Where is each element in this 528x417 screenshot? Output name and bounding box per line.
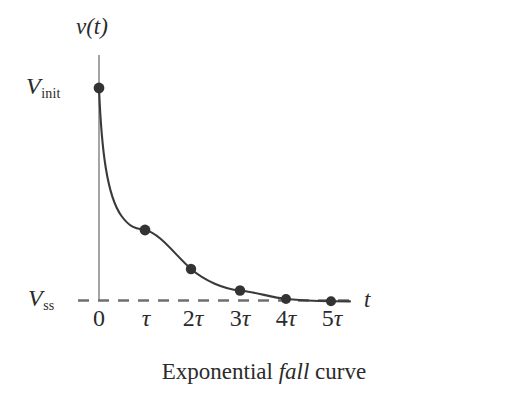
data-point-marker xyxy=(281,294,291,304)
y-axis-value-label-initial: Vinit xyxy=(26,74,61,101)
v-init-subscript: init xyxy=(41,86,61,101)
data-point-marker xyxy=(235,285,245,295)
x-axis-label: t xyxy=(364,288,370,311)
tick-tau-symbol: τ xyxy=(195,305,204,331)
caption-suffix: curve xyxy=(315,359,366,384)
x-tick-label-tau: τ xyxy=(124,306,168,330)
tick-coefficient: 5 xyxy=(322,305,334,331)
data-point-marker xyxy=(186,264,196,274)
x-tick-label-3tau: 3τ xyxy=(218,306,262,330)
tick-coefficient: 2 xyxy=(183,305,195,331)
caption-emphasis: fall xyxy=(279,359,310,384)
v-ss-symbol: V xyxy=(28,285,43,311)
x-tick-label-2tau: 2τ xyxy=(171,306,215,330)
y-axis-value-label-steady-state: Vss xyxy=(28,286,54,313)
x-tick-label-4tau: 4τ xyxy=(264,306,308,330)
y-axis-label: v(t) xyxy=(76,15,108,38)
caption-prefix: Exponential xyxy=(162,359,273,384)
tick-tau-symbol: τ xyxy=(242,305,251,331)
tick-coefficient: 3 xyxy=(230,305,242,331)
tick-coefficient: 0 xyxy=(93,305,105,331)
tick-tau-symbol: τ xyxy=(142,305,151,331)
tick-tau-symbol: τ xyxy=(288,305,297,331)
x-tick-label-5tau: 5τ xyxy=(310,306,354,330)
tick-coefficient: 4 xyxy=(276,305,288,331)
tick-tau-symbol: τ xyxy=(334,305,343,331)
x-tick-label-0: 0 xyxy=(77,306,121,330)
data-point-marker xyxy=(94,83,105,94)
figure-caption: Exponential fall curve xyxy=(0,358,528,386)
exponential-fall-curve-figure: v(t) t Vinit Vss 0 τ 2τ 3τ 4τ 5τ Exponen… xyxy=(0,0,528,417)
exponential-decay-curve xyxy=(99,88,350,301)
v-init-symbol: V xyxy=(26,73,41,99)
v-ss-subscript: ss xyxy=(43,298,55,313)
plot-canvas xyxy=(0,0,528,417)
data-point-marker xyxy=(140,225,151,236)
